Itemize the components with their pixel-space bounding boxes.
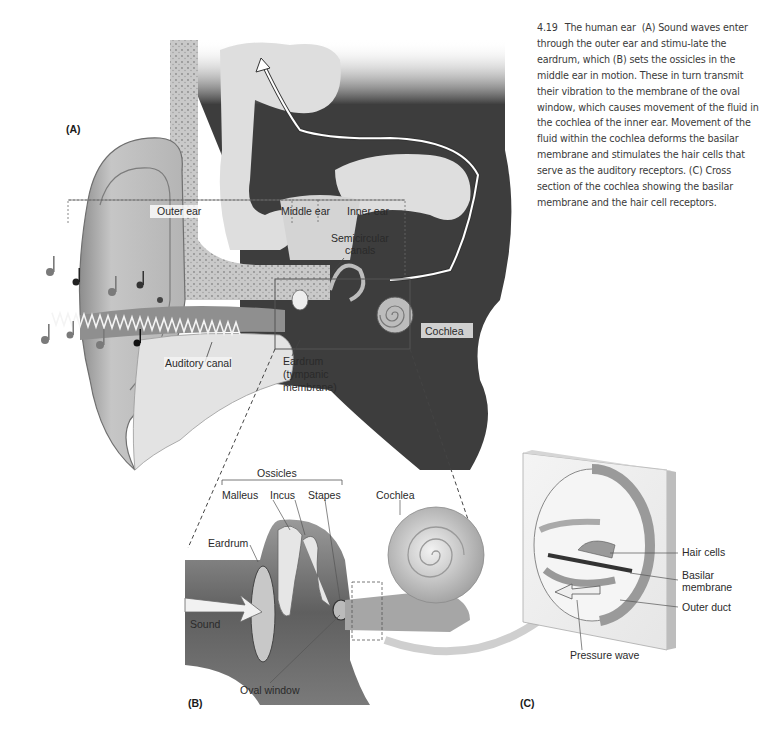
figure-caption: 4.19 The human ear (A) Sound waves enter… [537,20,759,211]
hair-cells-label: Hair cells [682,546,725,558]
pressure-wave-label: Pressure wave [570,649,640,661]
stapes-label: Stapes [308,489,341,501]
eardrum-label-a-3: membrane) [283,381,337,393]
auditory-canal-label: Auditory canal [165,357,232,369]
cochlea-label-a: Cochlea [425,325,464,337]
outer-ear-label: Outer ear [157,205,202,217]
eardrum-label-a-2: (tympanic [283,368,329,380]
cochlea-small [377,297,413,333]
eardrum-label-a-1: Eardrum [283,355,324,367]
panel-b-label: (B) [188,697,203,709]
cochlea-label-b: Cochlea [376,489,415,501]
malleus-label: Malleus [222,489,258,501]
cochlea-spiral-b [388,507,484,603]
basilar-label-2: membrane [682,581,732,593]
semicircular-label-1: Semicircular [331,232,389,244]
panel-c-label: (C) [520,697,535,709]
caption-body: (A) Sound waves enter through the outer … [537,22,759,208]
basilar-label-1: Basilar [682,569,715,581]
ossicles-label: Ossicles [257,467,297,479]
semicircular-label-2: canals [345,244,375,256]
figure-title: The human ear [565,22,636,33]
panel-c-cochlea-cross-section [523,450,678,650]
outer-duct-label: Outer duct [682,601,731,613]
figure-number: 4.19 [537,22,558,33]
middle-ear-label: Middle ear [281,205,331,217]
eardrum-label-b: Eardrum [208,537,249,549]
sound-label: Sound [190,618,221,630]
inner-ear-label: Inner ear [347,205,390,217]
panel-b-middle-ear [185,480,540,705]
panel-a-label: (A) [66,123,81,135]
oval-window-label: Oval window [240,684,300,696]
incus-label: Incus [270,489,295,501]
